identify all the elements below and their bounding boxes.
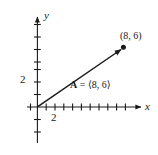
y-axis-tick-label-2: 2: [20, 74, 26, 85]
y-axis-label: y: [44, 10, 49, 21]
point-coordinate-label: (8, 6): [120, 31, 142, 41]
vector-components: ⟨8, 6⟩: [88, 79, 111, 90]
vector-equals-sign: =: [77, 79, 88, 90]
y-axis: [34, 17, 41, 143]
vector-equation-label: A = ⟨8, 6⟩: [70, 80, 111, 90]
x-axis: [27, 104, 141, 111]
point-marker-8-6: [121, 45, 126, 50]
x-axis-label: x: [145, 101, 150, 112]
x-axis-tick-label-2: 2: [51, 112, 57, 123]
vector-figure: y x 2 2 (8, 6) A = ⟨8, 6⟩: [0, 0, 158, 155]
